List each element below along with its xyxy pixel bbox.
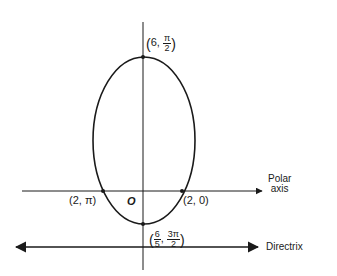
bottom-r-fraction: 65 — [154, 230, 161, 249]
point-top — [141, 55, 145, 59]
label-polar-axis: Polar axis — [268, 174, 291, 194]
bottom-r-den: 5 — [154, 240, 161, 249]
label-point-bottom: (65, 3π2) — [149, 230, 185, 249]
top-r: 6 — [151, 36, 157, 48]
point-left — [101, 189, 105, 193]
bottom-theta-fraction: 3π2 — [167, 230, 180, 249]
label-directrix: Directrix — [266, 242, 303, 252]
polar-axis-label-line2: axis — [268, 184, 291, 194]
label-point-left: (2, π) — [69, 195, 96, 206]
top-theta-den: 2 — [163, 44, 171, 53]
label-point-right: (2, 0) — [183, 195, 209, 206]
point-right — [180, 189, 184, 193]
label-point-top: (6, π2) — [146, 34, 176, 53]
label-pole: O — [127, 196, 136, 207]
ellipse-curve — [93, 57, 195, 224]
bottom-theta-den: 2 — [167, 240, 180, 249]
top-theta-fraction: π2 — [163, 34, 171, 53]
point-bottom — [141, 222, 145, 226]
